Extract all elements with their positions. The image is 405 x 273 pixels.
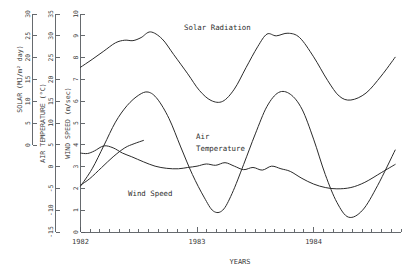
- wind_speed-tick-label: 7: [72, 77, 80, 81]
- air_temperature-tick-label: -10: [47, 204, 55, 216]
- x-axis-year-label: 1982: [72, 238, 89, 246]
- x-axis-tick-labels: 198219831984: [72, 238, 322, 246]
- air_temperature-tick-label: 0: [47, 165, 55, 169]
- curve-labels: Solar Radiation Air Temperature Wind Spe…: [128, 23, 251, 198]
- wind_speed-tick-label: 0: [72, 230, 80, 234]
- wind_speed-tick-label: 8: [72, 56, 80, 60]
- air-temperature-label-line1: Air: [196, 132, 210, 141]
- air_temperature-tick-label: 20: [47, 75, 55, 83]
- air_temperature-tick-label: 25: [47, 54, 55, 62]
- x-axis-title: YEARS: [229, 258, 250, 266]
- wind-speed-label: Wind Speed: [128, 189, 173, 198]
- wind_speed-tick-label: 4: [72, 143, 80, 147]
- solar-radiation-curve: [81, 32, 396, 102]
- solar-axis-group: 051015202530 SOLAR (MJ/m² day): [16, 10, 37, 147]
- wind-axis-group: 012345678910 WIND SPEED (m/sec): [64, 10, 85, 234]
- solar-tick-label: 30: [24, 10, 32, 18]
- wind-axis-title: WIND SPEED (m/sec): [64, 87, 72, 158]
- air_temperature-tick-label: 15: [47, 97, 55, 105]
- air_temperature-tick-label: 30: [47, 32, 55, 40]
- air_temperature-tick-label: 10: [47, 119, 55, 127]
- air-temperature-label-line2: Temperature: [196, 144, 245, 153]
- air_temperature-tick-label: 35: [47, 10, 55, 18]
- wind_speed-tick-label: 3: [72, 165, 80, 169]
- wind_speed-tick-label: 5: [72, 121, 80, 125]
- wind_speed-tick-label: 9: [72, 34, 80, 38]
- x-axis-group: 198219831984 YEARS: [72, 227, 401, 266]
- air_temperature-tick-label: -5: [47, 184, 55, 192]
- air_temperature-tick-label: -15: [47, 226, 55, 238]
- solar-tick-label: 5: [24, 121, 32, 125]
- x-axis-year-label: 1984: [305, 238, 322, 246]
- temperature-axis-tick-labels: -15-10-505101520253035: [47, 10, 55, 238]
- solar-tick-label: 20: [24, 54, 32, 62]
- wind-axis-ticks: [81, 14, 85, 232]
- wind_speed-tick-label: 6: [72, 99, 80, 103]
- solar-tick-label: 25: [24, 32, 32, 40]
- solar-radiation-label-line1: Solar Radiation: [184, 23, 251, 32]
- multi-axis-timeseries-chart: 051015202530 SOLAR (MJ/m² day) -15-10-50…: [0, 0, 405, 273]
- wind_speed-tick-label: 1: [72, 208, 80, 212]
- wind_speed-tick-label: 2: [72, 186, 80, 190]
- figure-container: 051015202530 SOLAR (MJ/m² day) -15-10-50…: [0, 0, 405, 273]
- air_temperature-tick-label: 5: [47, 143, 55, 147]
- solar-axis-title: SOLAR (MJ/m² day): [16, 45, 24, 113]
- temperature-axis-group: -15-10-505101520253035 AIR TEMPERATURE (…: [39, 10, 60, 238]
- solar-axis-ticks: [33, 14, 37, 145]
- x-axis-ticks: [81, 227, 402, 232]
- wind_speed-tick-label: 10: [72, 10, 80, 18]
- wind-axis-tick-labels: 012345678910: [72, 10, 80, 234]
- x-axis-year-label: 1983: [189, 238, 206, 246]
- temperature-axis-ticks: [56, 14, 60, 232]
- solar-axis-tick-labels: 051015202530: [24, 10, 32, 147]
- solar-tick-label: 15: [24, 76, 32, 84]
- solar-tick-label: 10: [24, 97, 32, 105]
- solar-tick-label: 0: [24, 143, 32, 147]
- temperature-axis-title: AIR TEMPERATURE (°C): [39, 83, 47, 162]
- air-temperature-curve: [81, 91, 396, 217]
